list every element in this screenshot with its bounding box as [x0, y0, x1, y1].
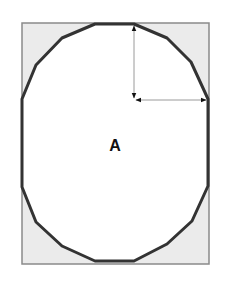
- shape-label: A: [109, 138, 121, 154]
